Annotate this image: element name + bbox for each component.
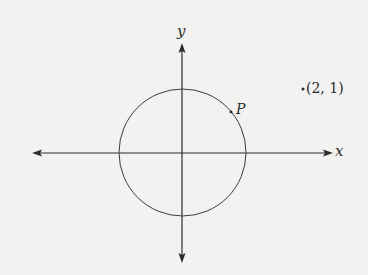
y-axis-label: y bbox=[177, 24, 185, 39]
coordinate-plane bbox=[0, 0, 368, 275]
diagram-canvas: y x P (2, 1) bbox=[0, 0, 368, 275]
point-p-marker bbox=[230, 111, 233, 114]
x-axis-label: x bbox=[335, 144, 343, 159]
point-2-1-marker bbox=[302, 88, 305, 91]
point-p-label: P bbox=[236, 102, 245, 116]
point-2-1-label: (2, 1) bbox=[306, 81, 344, 95]
